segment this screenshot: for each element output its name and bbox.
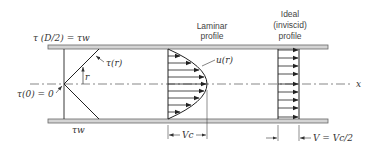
pipe-wall-top <box>48 45 328 49</box>
tau-wall-bottom-label: τw <box>72 125 85 135</box>
laminar-title-line2: profile <box>200 31 223 41</box>
v-avg-label: V = Vc/2 <box>313 133 353 143</box>
tau-center-label: τ(0) = 0 <box>17 89 54 99</box>
tau-r-label: τ(r) <box>106 58 123 68</box>
shear-line-upper <box>64 49 99 84</box>
pipe-wall-bottom <box>48 119 328 123</box>
tau-center-leader <box>56 86 62 93</box>
laminar-title-line1: Laminar <box>197 21 228 31</box>
u-r-label: u(r) <box>216 55 234 65</box>
u-r-leader <box>202 60 215 66</box>
ideal-title-line2: (inviscid) <box>273 20 307 30</box>
tau-r-leader <box>96 56 104 62</box>
vc-label: Vc <box>182 130 194 140</box>
pipe-flow-diagram: x r τ(r) τ(0) = 0 τ (D/2) = τw τw Lamina… <box>0 0 378 155</box>
ideal-title-line3: profile <box>278 31 301 41</box>
r-label: r <box>85 72 90 82</box>
shear-line-lower <box>64 84 99 119</box>
ideal-title-line1: Ideal <box>281 9 300 19</box>
x-axis-label: x <box>356 79 361 89</box>
tau-wall-top-label: τ (D/2) = τw <box>33 33 90 43</box>
